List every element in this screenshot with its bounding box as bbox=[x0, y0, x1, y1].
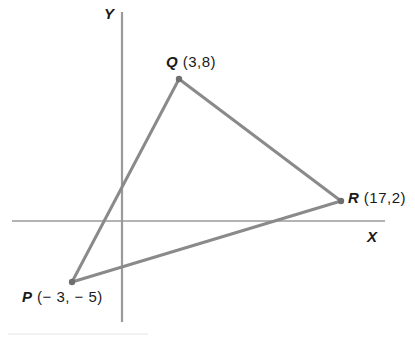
x-axis-label: X bbox=[367, 229, 377, 244]
vertex-label-p: P (− 3, − 5) bbox=[22, 289, 103, 304]
vertex-coords-r: (17,2) bbox=[359, 189, 406, 206]
vertex-label-r: R (17,2) bbox=[348, 190, 406, 205]
y-axis-label: Y bbox=[104, 6, 114, 21]
vertex-point-r bbox=[338, 198, 344, 204]
vertex-name-q: Q bbox=[166, 53, 178, 70]
vertex-coords-q: (3,8) bbox=[178, 53, 216, 70]
vertex-point-q bbox=[176, 76, 182, 82]
vertex-name-p: P bbox=[22, 288, 32, 305]
triangle-edge-pq bbox=[72, 79, 179, 282]
triangle-edge-qr bbox=[179, 79, 341, 201]
page-edge-artifact bbox=[8, 333, 148, 335]
vertex-name-r: R bbox=[348, 189, 359, 206]
triangle-edge-rp bbox=[72, 201, 341, 282]
vertex-point-p bbox=[69, 279, 75, 285]
vertex-label-q: Q (3,8) bbox=[166, 54, 216, 69]
vertex-coords-p: (− 3, − 5) bbox=[32, 288, 103, 305]
